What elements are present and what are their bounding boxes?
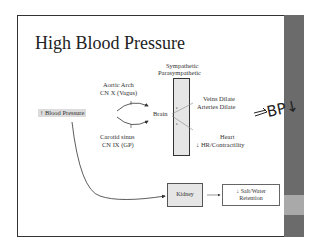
svg-text:e: e bbox=[176, 105, 179, 110]
diagram-arrows: e e BP↓ bbox=[0, 0, 325, 249]
handwritten-bp-annotation: BP↓ bbox=[265, 97, 300, 121]
svg-text:e: e bbox=[176, 121, 179, 126]
